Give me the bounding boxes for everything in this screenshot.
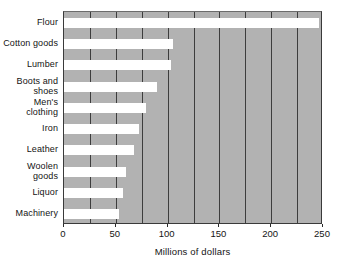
bar <box>64 124 139 134</box>
bar-chart-figure: FlourCotton goodsLumberBoots and shoesMe… <box>0 0 348 269</box>
bar <box>64 167 126 177</box>
bar <box>64 209 119 219</box>
category-label: Leather <box>0 145 58 155</box>
tick-label: 100 <box>159 228 175 239</box>
tick-mark <box>115 224 116 227</box>
bar <box>64 145 134 155</box>
tick-label: 0 <box>60 228 65 239</box>
tick-mark <box>63 224 64 227</box>
tick-mark <box>218 224 219 227</box>
tick-label: 150 <box>210 228 226 239</box>
bar <box>64 60 171 70</box>
category-label: Men's clothing <box>0 98 58 117</box>
tick-label: 250 <box>314 228 330 239</box>
tick-mark <box>322 224 323 227</box>
category-axis: FlourCotton goodsLumberBoots and shoesMe… <box>0 11 61 224</box>
tick-mark <box>270 224 271 227</box>
bar <box>64 18 319 28</box>
value-axis: 050100150200250 <box>63 224 322 242</box>
bar-series <box>64 12 321 223</box>
bar <box>64 39 173 49</box>
bar <box>64 82 157 92</box>
tick-mark <box>167 224 168 227</box>
category-label: Machinery <box>0 209 58 219</box>
category-label: Iron <box>0 124 58 134</box>
category-label: Flour <box>0 18 58 28</box>
tick-label: 200 <box>262 228 278 239</box>
plot-area <box>63 11 322 224</box>
bar <box>64 103 146 113</box>
category-label: Lumber <box>0 60 58 70</box>
tick-label: 50 <box>110 228 121 239</box>
category-label: Woolen goods <box>0 162 58 181</box>
bar <box>64 188 123 198</box>
value-axis-title: Millions of dollars <box>63 246 322 257</box>
category-label: Boots and shoes <box>0 77 58 96</box>
category-label: Liquor <box>0 188 58 198</box>
category-label: Cotton goods <box>0 39 58 49</box>
